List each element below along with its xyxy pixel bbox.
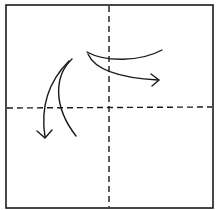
horizontal-center-valley-fold xyxy=(7,107,212,108)
origami-diagram xyxy=(0,0,216,210)
